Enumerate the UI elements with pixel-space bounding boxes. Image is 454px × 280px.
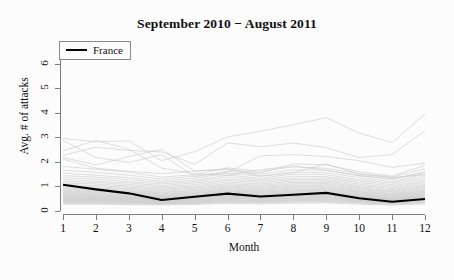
- y-tick-label-wrap-4: 4: [36, 106, 52, 120]
- y-tick-label-6: 6: [38, 55, 50, 71]
- y-tick-label-wrap-3: 3: [36, 130, 52, 144]
- x-tick-4: [162, 215, 163, 220]
- plot-lines: [63, 54, 425, 211]
- x-tick-12: [425, 215, 426, 220]
- legend-line-sample-france: [66, 49, 87, 51]
- x-tick-2: [96, 215, 97, 220]
- x-axis-title: Month: [63, 241, 425, 253]
- x-tick-label-7: 7: [248, 222, 272, 234]
- y-tick-label-3: 3: [38, 128, 50, 144]
- series-line-country-04: [63, 159, 425, 176]
- x-tick-6: [228, 215, 229, 220]
- x-tick-label-3: 3: [117, 222, 141, 234]
- y-tick-label-5: 5: [38, 79, 50, 95]
- y-tick-label-0: 0: [38, 202, 50, 218]
- x-tick-label-4: 4: [150, 222, 174, 234]
- chart-figure: September 2010 − August 2011 0123456 123…: [0, 0, 454, 280]
- x-tick-label-11: 11: [380, 222, 404, 234]
- plot-area: [63, 54, 425, 211]
- y-tick-label-1: 1: [38, 177, 50, 193]
- y-tick-6: [55, 64, 60, 65]
- y-tick-label-4: 4: [38, 104, 50, 120]
- x-tick-label-10: 10: [347, 222, 371, 234]
- y-tick-label-wrap-2: 2: [36, 155, 52, 169]
- x-axis-line: [63, 214, 425, 215]
- legend-label-france: France: [93, 44, 123, 56]
- y-tick-label-wrap-6: 6: [36, 57, 52, 71]
- y-tick-label-wrap-5: 5: [36, 81, 52, 95]
- y-tick-label-wrap-0: 0: [36, 204, 52, 218]
- y-tick-0: [55, 211, 60, 212]
- x-tick-label-1: 1: [51, 222, 75, 234]
- y-tick-label-wrap-1: 1: [36, 179, 52, 193]
- y-tick-4: [55, 113, 60, 114]
- x-tick-8: [293, 215, 294, 220]
- x-tick-label-8: 8: [281, 222, 305, 234]
- chart-title: September 2010 − August 2011: [0, 16, 454, 32]
- x-tick-9: [326, 215, 327, 220]
- y-tick-5: [55, 88, 60, 89]
- y-axis-title: Avg. # of attacks: [18, 46, 30, 186]
- y-tick-1: [55, 186, 60, 187]
- x-tick-label-5: 5: [183, 222, 207, 234]
- y-tick-3: [55, 137, 60, 138]
- y-tick-2: [55, 162, 60, 163]
- series-line-country-01: [63, 114, 425, 161]
- legend: France: [59, 41, 131, 60]
- x-tick-label-12: 12: [413, 222, 437, 234]
- x-tick-10: [359, 215, 360, 220]
- y-tick-label-2: 2: [38, 153, 50, 169]
- x-tick-1: [63, 215, 64, 220]
- x-tick-5: [195, 215, 196, 220]
- x-tick-label-6: 6: [216, 222, 240, 234]
- x-tick-label-9: 9: [314, 222, 338, 234]
- x-tick-label-2: 2: [84, 222, 108, 234]
- x-tick-11: [392, 215, 393, 220]
- x-tick-3: [129, 215, 130, 220]
- x-tick-7: [260, 215, 261, 220]
- y-axis-line: [60, 57, 61, 211]
